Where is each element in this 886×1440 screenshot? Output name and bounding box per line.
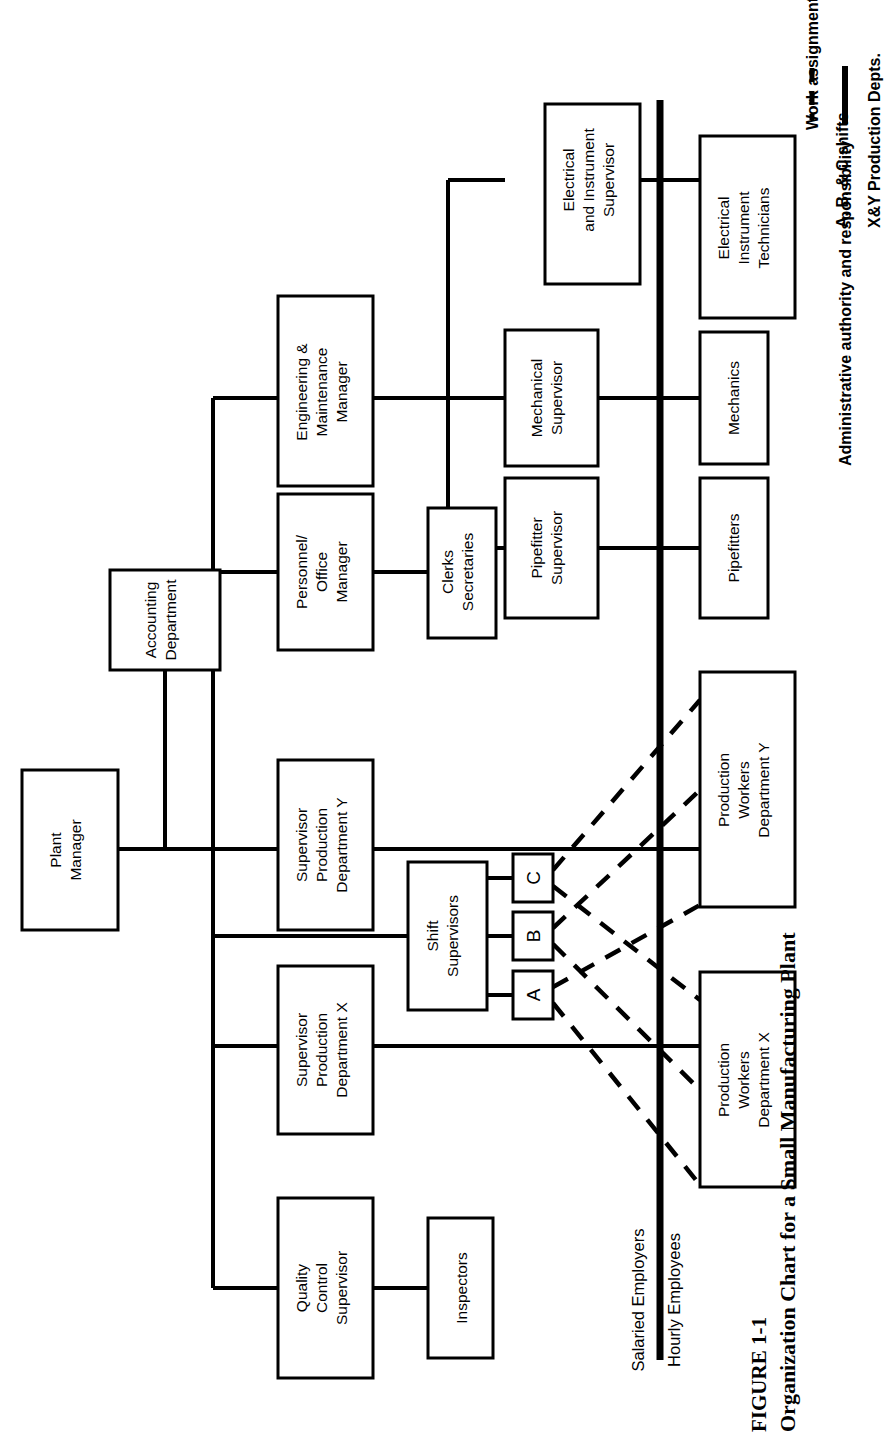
node-inspectors[interactable]: Inspectors [428, 1218, 493, 1358]
node-mechanics[interactable]: Mechanics [700, 332, 768, 464]
figure-label: FIGURE 1-1 [747, 1317, 771, 1432]
text-line: Electrical [715, 197, 732, 260]
divider-label-salaried: Salaried Employers [629, 1228, 647, 1371]
text-line: Supervisor [548, 361, 565, 435]
text-line: Workers [735, 761, 752, 819]
node-shift-c[interactable]: C [513, 854, 553, 902]
node-supervisor-production-y[interactable]: Supervisor Production Department Y [278, 760, 373, 930]
divider-label-hourly: Hourly Employees [665, 1233, 683, 1367]
text-line: Workers [735, 1051, 752, 1109]
text-line: Manager [333, 361, 350, 422]
text-line: Accounting [142, 582, 159, 659]
text-line: Manager [67, 819, 84, 880]
dash-c-to-workers-x [553, 886, 700, 1000]
legend: Work assignments only A, B, & C shifts A… [804, 0, 883, 466]
dash-c-to-workers-y [553, 700, 700, 870]
node-plant-manager[interactable]: Plant Manager [22, 770, 118, 930]
node-quality-control-supervisor[interactable]: Quality Control Supervisor [278, 1198, 373, 1378]
node-mechanical-supervisor[interactable]: Mechanical Supervisor [505, 330, 598, 466]
dash-a-to-workers-x [553, 1003, 700, 1185]
node-supervisor-production-x[interactable]: Supervisor Production Department X [278, 966, 373, 1134]
node-personnel-office-manager[interactable]: Personnel/ Office Manager [278, 494, 373, 650]
text-line: Secretaries [459, 533, 476, 612]
salaried-hourly-divider: Salaried Employers Hourly Employees [629, 100, 683, 1372]
node-shift-supervisors[interactable]: Shift Supervisors [408, 862, 487, 1010]
text-line: Inspectors [453, 1252, 470, 1324]
text-line: Production [715, 753, 732, 827]
text-line: Shift [424, 920, 441, 952]
text-line: Plant [47, 832, 64, 868]
dash-a-to-workers-y [553, 905, 700, 987]
text-line: Quality [293, 1264, 310, 1312]
text-line: Department Y [333, 797, 350, 892]
text-line: Clerks [439, 550, 456, 594]
text-line: Department X [333, 1002, 350, 1098]
text-line: Engineering & [293, 343, 310, 441]
figure-page: Salaried Employers Hourly Employees Plan… [0, 0, 886, 1440]
node-pipefitters[interactable]: Pipefitters [700, 478, 768, 618]
text-line: Control [313, 1263, 330, 1313]
node-shift-a[interactable]: A [513, 971, 553, 1019]
text-line: Maintenance [313, 348, 330, 437]
text-line: Department X [755, 1032, 772, 1128]
text-line: Supervisor [548, 511, 565, 585]
node-engineering-maintenance-manager[interactable]: Engineering & Maintenance Manager [278, 296, 373, 486]
node-shift-c-label: C [523, 871, 544, 885]
node-clerks-secretaries[interactable]: Clerks Secretaries [428, 508, 496, 638]
node-electrical-instrument-technicians[interactable]: Electrical Instrument Technicians [700, 136, 795, 318]
legend-item-1-text: Administrative authority and responsibil… [837, 141, 854, 466]
text-line: Mechanics [725, 361, 742, 435]
node-inspectors-label: Inspectors [453, 1252, 470, 1324]
text-line: Electrical [560, 149, 577, 212]
node-shift-b[interactable]: B [513, 912, 553, 960]
legend-item-1-note: X&Y Production Depts. [866, 53, 883, 228]
node-shift-a-label: A [523, 988, 544, 1001]
text-line: Supervisors [444, 895, 461, 977]
node-mechanics-label: Mechanics [725, 361, 742, 435]
text-line: Instrument [735, 191, 752, 265]
node-pipefitters-label: Pipefitters [725, 513, 742, 582]
text-line: Supervisor [293, 808, 310, 882]
node-electrical-instrument-supervisor[interactable]: Electrical and Instrument Supervisor [545, 104, 640, 284]
text-line: and Instrument [580, 128, 597, 232]
text-line: Production [313, 1013, 330, 1087]
node-production-workers-y[interactable]: Production Workers Department Y [700, 672, 795, 907]
dash-b-to-workers-y [553, 790, 700, 928]
node-supervisor-production-y-label: Supervisor Production Department Y [293, 797, 350, 892]
text-line: Production [715, 1043, 732, 1117]
node-supervisor-production-x-label: Supervisor Production Department X [293, 1002, 350, 1098]
organization-chart: Salaried Employers Hourly Employees Plan… [0, 0, 886, 1440]
text-line: Production [313, 808, 330, 882]
node-accounting-department[interactable]: Accounting Department [110, 570, 220, 670]
text-line: Supervisor [293, 1013, 310, 1087]
node-pipefitter-supervisor[interactable]: Pipefitter Supervisor [505, 478, 598, 618]
text-line: Department [162, 579, 179, 661]
dashed-assignment-lines [553, 700, 700, 1185]
text-line: Mechanical [528, 359, 545, 437]
node-electrical-instrument-technicians-label: Electrical Instrument Technicians [715, 187, 772, 268]
legend-item-0-text: Work assignments only [804, 0, 821, 130]
text-line: Pipefitter [528, 517, 545, 578]
text-line: Personnel/ [293, 534, 310, 609]
text-line: Supervisor [600, 143, 617, 217]
text-line: Manager [333, 541, 350, 602]
text-line: Technicians [755, 187, 772, 268]
text-line: Department Y [755, 742, 772, 837]
figure-caption: Organization Chart for a Small Manufactu… [775, 932, 800, 1432]
text-line: Supervisor [333, 1251, 350, 1325]
node-shift-b-label: B [523, 930, 544, 943]
dash-b-to-workers-x [553, 944, 700, 1090]
connector-lines [118, 180, 700, 1288]
text-line: Pipefitters [725, 513, 742, 582]
text-line: Office [313, 552, 330, 592]
